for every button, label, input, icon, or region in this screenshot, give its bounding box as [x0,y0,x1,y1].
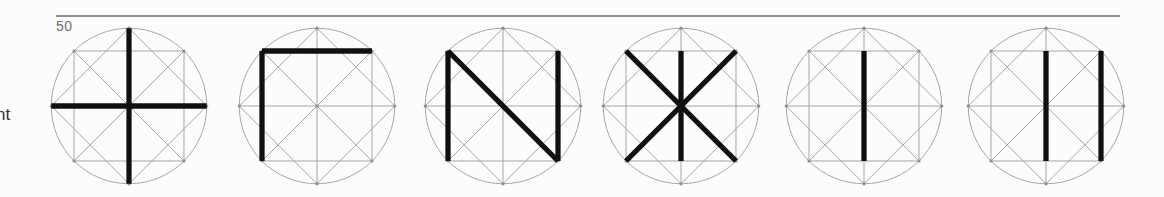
figure-corner [236,25,398,187]
vertex-dot [917,49,920,52]
vertex-dot [917,159,920,162]
vertex-dot [785,104,788,107]
vertex-dot [940,104,943,107]
vertex-dot [315,27,318,30]
vertex-dot [315,182,318,185]
vertex-dot [72,159,75,162]
vertex-dot [862,182,865,185]
scanned-page: 50 nt [0,0,1164,197]
vertex-dot [238,104,241,107]
vertex-dot [579,104,582,107]
vertex-dot [807,49,810,52]
vertex-dot [501,27,504,30]
vertex-dot [862,27,865,30]
figure-double-bar [965,25,1127,187]
vertex-dot [501,182,504,185]
vertex-dot [1122,104,1125,107]
figure-bar [783,25,945,187]
figure-row [0,0,1164,197]
vertex-dot [315,104,318,107]
vertex-dot [989,49,992,52]
vertex-dot [393,104,396,107]
vertex-dot [370,159,373,162]
vertex-dot [967,104,970,107]
vertex-dot [807,159,810,162]
vertex-dot [1044,182,1047,185]
vertex-dot [679,27,682,30]
vertex-dot [989,159,992,162]
vertex-dot [602,104,605,107]
vertex-dot [182,49,185,52]
vertex-dot [424,104,427,107]
vertex-dot [1044,27,1047,30]
figure-cross [48,25,210,187]
vertex-dot [757,104,760,107]
figure-n-diagonal [422,25,584,187]
figure-asterisk [600,25,762,187]
vertex-dot [72,49,75,52]
vertex-dot [182,159,185,162]
vertex-dot [679,182,682,185]
